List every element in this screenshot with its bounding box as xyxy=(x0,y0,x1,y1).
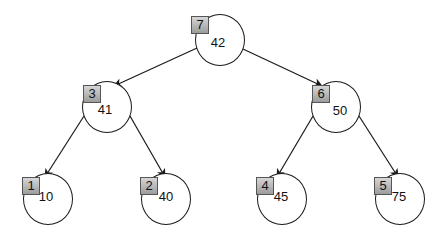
node-value: 50 xyxy=(325,103,355,118)
node-value: 42 xyxy=(203,35,233,50)
edge-7-to-6 xyxy=(243,49,322,86)
node-index-box: 5 xyxy=(374,177,392,195)
node-index-box: 6 xyxy=(312,85,330,103)
edge-6-to-5 xyxy=(359,116,398,177)
edge-3-to-2 xyxy=(130,116,165,177)
edge-6-to-4 xyxy=(277,116,313,177)
node-index-box: 4 xyxy=(256,177,274,195)
node-index-box: 1 xyxy=(22,177,40,195)
edge-3-to-1 xyxy=(45,116,84,177)
node-value: 41 xyxy=(90,102,120,117)
node-index-box: 7 xyxy=(191,16,209,34)
binary-tree-diagram: 42 7 41 3 50 6 10 1 40 2 45 4 75 5 xyxy=(0,0,442,230)
node-index-box: 2 xyxy=(140,177,158,195)
node-index-box: 3 xyxy=(83,85,101,103)
edge-7-to-3 xyxy=(114,48,197,86)
